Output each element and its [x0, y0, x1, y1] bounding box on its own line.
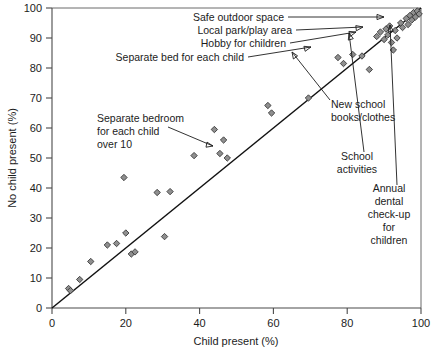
leader-new-school [292, 52, 330, 100]
x-axis-title: Child present (%) [194, 335, 279, 347]
annotation-separate-bedroom-line1: Separate bedroom [97, 112, 184, 124]
data-point [220, 137, 226, 143]
annotation-school-activities: School activities [337, 150, 377, 175]
data-point [224, 155, 230, 161]
annotation-school-activities-line2: activities [337, 163, 377, 175]
annotation-school-activities-line1: School [341, 150, 373, 162]
data-point [88, 258, 94, 264]
data-point [217, 150, 223, 156]
scatter-chart-figure: 100 90 80 70 60 50 40 30 20 10 0 0 20 40… [0, 0, 442, 350]
x-tick-label-20: 20 [120, 317, 132, 329]
arrowhead-local-park [356, 26, 363, 31]
annotation-separate-bed-for-each-child: Separate bed for each child [116, 51, 245, 63]
annotation-annual-dental-line5: children [371, 234, 408, 246]
y-tick-label-50: 50 [30, 152, 42, 164]
x-tick-label-80: 80 [341, 317, 353, 329]
y-axis-title: No child present (%) [6, 108, 18, 208]
y-tick-label-60: 60 [30, 122, 42, 134]
data-point [123, 230, 129, 236]
annotation-new-school-line2: books/clothes [331, 111, 395, 123]
data-point [191, 152, 197, 158]
annotation-annual-dental-line2: dental [375, 195, 404, 207]
data-point [154, 189, 160, 195]
data-point [350, 51, 356, 57]
annotation-hobby-for-children: Hobby for children [201, 37, 286, 49]
data-point [211, 126, 217, 132]
y-tick-label-90: 90 [30, 32, 42, 44]
x-tick-label-60: 60 [267, 317, 279, 329]
data-point [76, 276, 82, 282]
data-point [113, 240, 119, 246]
y-tick-label-70: 70 [30, 92, 42, 104]
leader-local-park [296, 27, 363, 30]
x-axis-ticks [52, 308, 421, 314]
data-point [268, 110, 274, 116]
annotation-separate-bedroom-line3: over 10 [97, 138, 132, 150]
data-point [167, 188, 173, 194]
annotation-annual-dental-line4: for [383, 221, 396, 233]
annotation-safe-outdoor-space: Safe outdoor space [193, 11, 284, 23]
annotation-annual-dental-line3: check-up [368, 208, 411, 220]
arrowhead-separate-bed [304, 46, 311, 51]
x-tick-label-40: 40 [193, 317, 205, 329]
y-tick-label-10: 10 [30, 272, 42, 284]
y-tick-label-40: 40 [30, 182, 42, 194]
annotation-new-school-books-clothes: New school books/clothes [331, 98, 395, 123]
annotation-local-park-play-area: Local park/play area [197, 24, 292, 36]
x-tick-label-100: 100 [412, 317, 430, 329]
y-tick-label-30: 30 [30, 212, 42, 224]
data-point [265, 102, 271, 108]
x-axis-tick-labels: 0 20 40 60 80 100 [49, 317, 430, 329]
y-tick-label-0: 0 [36, 302, 42, 314]
leader-school-activities [349, 33, 364, 152]
data-point [161, 233, 167, 239]
chart-svg: 100 90 80 70 60 50 40 30 20 10 0 0 20 40… [0, 0, 442, 350]
annotation-separate-bedroom-line2: for each child [97, 125, 160, 137]
annotation-labels: Safe outdoor space Local park/play area … [97, 11, 410, 246]
annotation-separate-bedroom-over-10: Separate bedroom for each child over 10 [97, 112, 184, 150]
y-tick-label-20: 20 [30, 242, 42, 254]
y-tick-label-100: 100 [24, 2, 42, 14]
leader-separate-bedroom [168, 127, 213, 146]
y-axis-tick-labels: 100 90 80 70 60 50 40 30 20 10 0 [24, 2, 42, 314]
data-point [366, 66, 372, 72]
data-point [394, 35, 400, 41]
data-point [340, 60, 346, 66]
data-point [104, 242, 110, 248]
annotation-new-school-line1: New school [331, 98, 385, 110]
data-point [121, 174, 127, 180]
leader-hobby [290, 32, 356, 43]
y-tick-label-80: 80 [30, 62, 42, 74]
data-point [388, 39, 394, 45]
annotation-annual-dental-check-up: Annual dental check-up for children [368, 182, 411, 246]
data-point [305, 95, 311, 101]
x-tick-label-0: 0 [49, 317, 55, 329]
y-axis-ticks [46, 8, 52, 308]
data-point [335, 54, 341, 60]
annotation-annual-dental-line1: Annual [373, 182, 406, 194]
